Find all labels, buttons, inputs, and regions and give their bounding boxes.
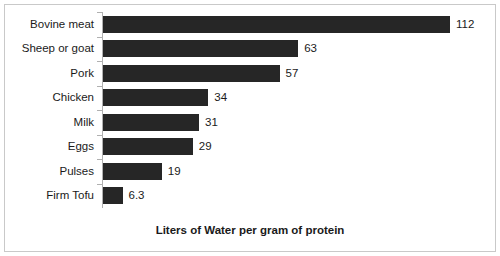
value-label: 112 bbox=[456, 18, 474, 31]
category-label: Bovine meat bbox=[0, 18, 94, 31]
category-label: Pork bbox=[0, 67, 94, 80]
value-label: 57 bbox=[286, 67, 299, 80]
bar-container: 31 bbox=[103, 114, 218, 131]
category-label: Chicken bbox=[0, 91, 94, 104]
axis-tick bbox=[97, 61, 102, 62]
value-label: 63 bbox=[304, 42, 317, 55]
value-label: 34 bbox=[214, 91, 227, 104]
bar-container: 29 bbox=[103, 138, 212, 155]
bar-row: Pork57 bbox=[0, 61, 500, 86]
bar-row: Sheep or goat63 bbox=[0, 37, 500, 62]
bar-chart-figure: Bovine meat112Sheep or goat63Pork57Chick… bbox=[0, 0, 500, 256]
x-axis-title: Liters of Water per gram of protein bbox=[0, 224, 500, 236]
bar-container: 57 bbox=[103, 65, 298, 82]
value-label: 19 bbox=[168, 165, 181, 178]
bar-row: Chicken34 bbox=[0, 86, 500, 111]
bar-row: Milk31 bbox=[0, 110, 500, 135]
axis-tick bbox=[97, 12, 102, 13]
category-label: Eggs bbox=[0, 140, 94, 153]
bar-container: 63 bbox=[103, 40, 317, 57]
axis-tick bbox=[97, 184, 102, 185]
bar bbox=[103, 163, 162, 180]
plot-area: Bovine meat112Sheep or goat63Pork57Chick… bbox=[0, 0, 500, 222]
bar-container: 19 bbox=[103, 163, 181, 180]
value-label: 29 bbox=[199, 140, 212, 153]
axis-tick bbox=[97, 159, 102, 160]
bar-container: 34 bbox=[103, 89, 227, 106]
bar-rows: Bovine meat112Sheep or goat63Pork57Chick… bbox=[0, 12, 500, 208]
bar-container: 112 bbox=[103, 16, 474, 33]
bar-container: 6.3 bbox=[103, 187, 145, 204]
bar bbox=[103, 187, 123, 204]
bar bbox=[103, 16, 450, 33]
axis-tick bbox=[97, 110, 102, 111]
bar-row: Bovine meat112 bbox=[0, 12, 500, 37]
bar bbox=[103, 65, 280, 82]
bar bbox=[103, 114, 199, 131]
category-label: Pulses bbox=[0, 165, 94, 178]
value-label: 31 bbox=[205, 116, 218, 129]
bar bbox=[103, 40, 298, 57]
bar-row: Firm Tofu6.3 bbox=[0, 184, 500, 209]
bar bbox=[103, 138, 193, 155]
category-label: Milk bbox=[0, 116, 94, 129]
value-label: 6.3 bbox=[129, 189, 145, 202]
axis-tick bbox=[97, 37, 102, 38]
axis-tick bbox=[97, 86, 102, 87]
category-label: Sheep or goat bbox=[0, 42, 94, 55]
category-label: Firm Tofu bbox=[0, 189, 94, 202]
bar-row: Eggs29 bbox=[0, 135, 500, 160]
axis-tick bbox=[97, 135, 102, 136]
bar-row: Pulses19 bbox=[0, 159, 500, 184]
bar bbox=[103, 89, 208, 106]
